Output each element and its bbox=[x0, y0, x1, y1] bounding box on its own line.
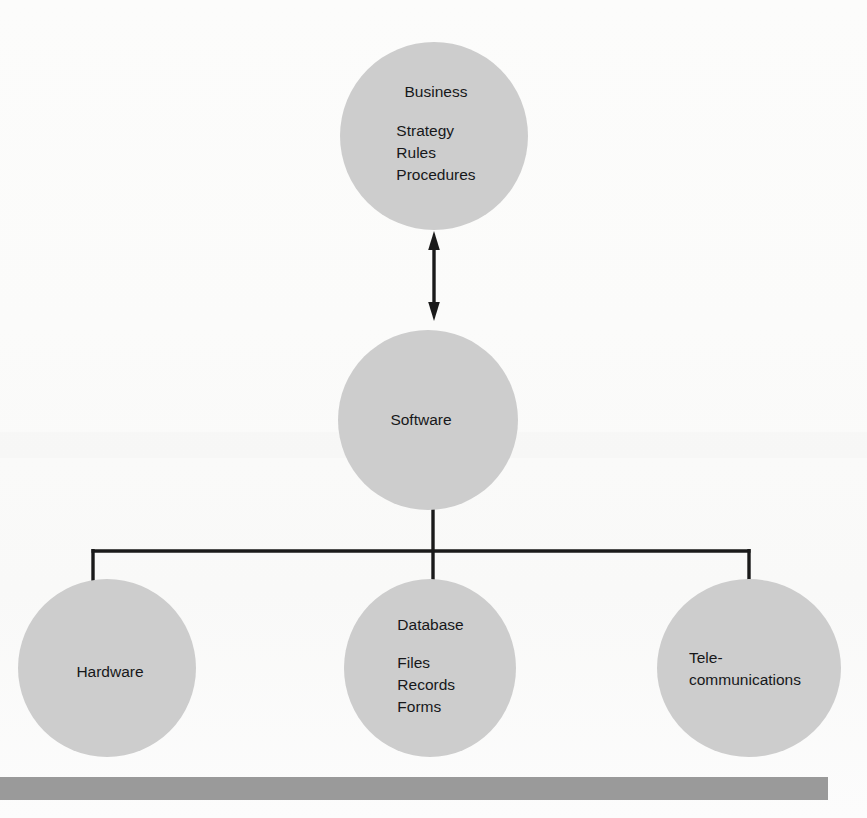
node-hardware-text: Hardware bbox=[70, 653, 143, 683]
arrow-business-software bbox=[428, 231, 440, 321]
node-database-item-files: Files bbox=[397, 652, 430, 674]
node-business-text: Business Strategy Rules Procedures bbox=[396, 81, 475, 186]
node-business-heading: Business bbox=[405, 81, 468, 103]
baseline-bar bbox=[0, 777, 828, 800]
node-hardware[interactable]: Hardware bbox=[18, 579, 196, 757]
node-database[interactable]: Database Files Records Forms bbox=[344, 579, 516, 757]
node-software-heading: Software bbox=[390, 409, 451, 431]
node-database-item-records: Records bbox=[397, 674, 455, 696]
node-hardware-heading: Hardware bbox=[76, 661, 143, 683]
node-software-text: Software bbox=[404, 409, 451, 431]
node-business-item-rules: Rules bbox=[396, 142, 436, 164]
node-business-item-strategy: Strategy bbox=[396, 120, 454, 142]
node-database-text: Database Files Records Forms bbox=[397, 614, 463, 718]
node-business[interactable]: Business Strategy Rules Procedures bbox=[340, 42, 528, 230]
tree-bracket-software-children bbox=[92, 509, 751, 585]
node-business-item-procedures: Procedures bbox=[396, 164, 475, 186]
node-telecommunications[interactable]: Tele- communications bbox=[657, 579, 841, 757]
node-database-heading: Database bbox=[397, 614, 463, 636]
node-telecommunications-line1: Tele- bbox=[689, 647, 723, 669]
diagram-canvas: Business Strategy Rules Procedures Softw… bbox=[0, 0, 867, 818]
node-telecommunications-text: Tele- communications bbox=[689, 647, 801, 691]
node-database-item-forms: Forms bbox=[397, 696, 441, 718]
node-telecommunications-line2: communications bbox=[689, 669, 801, 691]
node-software[interactable]: Software bbox=[338, 330, 518, 510]
